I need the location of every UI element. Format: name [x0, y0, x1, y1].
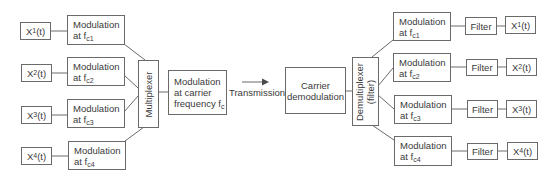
demodulator-fc4: Modulation at fc4: [394, 136, 452, 166]
demodulator-fc2: Modulation at fc2: [393, 53, 451, 82]
modulator-fc2: Modulation at fc2: [67, 57, 125, 86]
carrier-modulation: Modulation at carrier frequency fc: [168, 70, 227, 115]
input-signal-x1: X1(t): [20, 22, 51, 40]
filter-2: Filter: [466, 59, 498, 76]
input-signal-x4: X4(t): [21, 147, 52, 165]
transmission-label: Transmission: [229, 87, 285, 98]
output-signal-x2: X2(t): [506, 58, 537, 76]
multiplexer: Multiplexer: [138, 60, 159, 128]
output-signal-x1: X1(t): [505, 16, 536, 34]
demultiplexer: Demultiplexer (filter): [352, 57, 379, 126]
input-signal-x2: X2(t): [21, 64, 52, 82]
arrowhead-icon: [262, 79, 269, 86]
filter-3: Filter: [467, 100, 498, 118]
filter-4: Filter: [467, 143, 498, 160]
demodulator-fc1: Modulation at fc1: [393, 12, 451, 41]
modulator-fc3: Modulation at fc3: [67, 99, 125, 128]
output-signal-x3: X3(t): [506, 100, 537, 118]
filter-1: Filter: [465, 17, 497, 35]
input-signal-x3: X3(t): [21, 106, 52, 124]
output-signal-x4: X4(t): [507, 142, 538, 160]
modulator-fc4: Modulation at fc4: [68, 141, 126, 170]
modulator-fc1: Modulation at fc1: [67, 15, 125, 45]
demodulator-fc3: Modulation at fc3: [394, 95, 452, 124]
carrier-demodulation: Carrier demodulation: [285, 67, 346, 114]
